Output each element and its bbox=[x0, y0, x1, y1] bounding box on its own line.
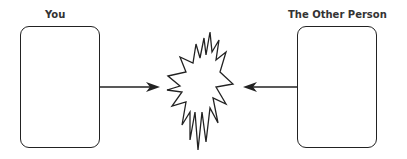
diagram-graphics bbox=[0, 0, 407, 159]
arrow-left-to-center bbox=[100, 82, 160, 92]
arrow-right-to-center bbox=[243, 82, 297, 92]
explosion-burst-icon bbox=[167, 32, 233, 150]
